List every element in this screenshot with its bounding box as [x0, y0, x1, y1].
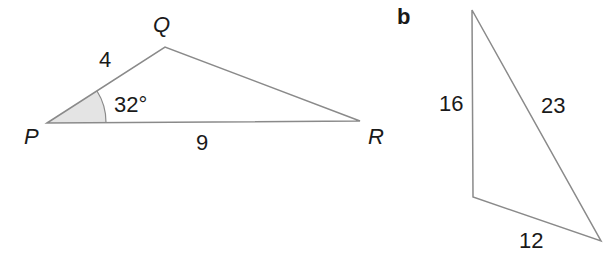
- side-pr-length: 9: [196, 132, 208, 154]
- triangle-pqr: [47, 47, 360, 123]
- diagram-canvas: [0, 0, 612, 256]
- vertex-p-label: P: [24, 126, 39, 148]
- triangle-b: [472, 10, 601, 241]
- side-left-length: 16: [439, 93, 463, 115]
- side-pq-length: 4: [99, 49, 111, 71]
- vertex-r-label: R: [368, 126, 384, 148]
- side-hypotenuse-length: 23: [541, 95, 565, 117]
- part-b-label: b: [397, 6, 410, 28]
- angle-p-value: 32°: [114, 94, 147, 116]
- angle-p-shading: [47, 91, 106, 123]
- vertex-q-label: Q: [153, 14, 170, 36]
- side-bottom-length: 12: [519, 230, 543, 252]
- triangle-b-outline: [472, 10, 601, 241]
